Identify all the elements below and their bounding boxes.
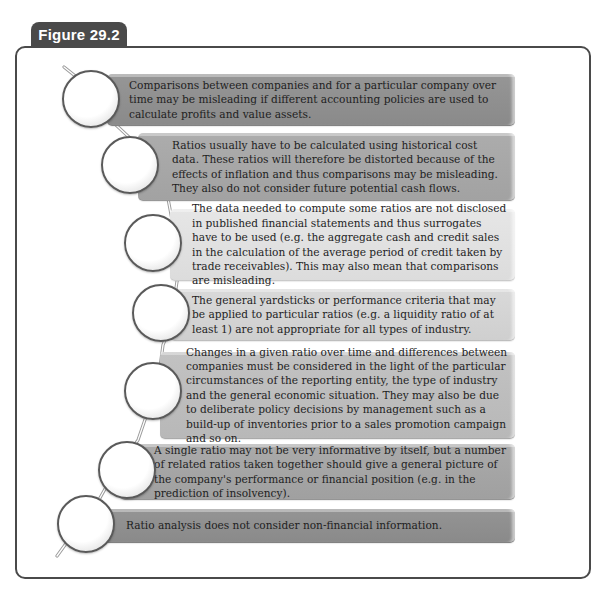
item-bar-1: Comparisons between companies and for a … <box>107 74 515 126</box>
bullet-circle-4 <box>132 284 190 342</box>
bullet-circle-6 <box>98 441 156 499</box>
item-text-5: Changes in a given ratio over time and d… <box>186 345 509 446</box>
item-text-2: Ratios usually have to be calculated usi… <box>172 138 505 196</box>
item-bar-4: The general yardsticks or performance cr… <box>170 289 515 341</box>
item-bar-5: Changes in a given ratio over time and d… <box>160 352 515 439</box>
item-text-7: Ratio analysis does not consider non-fin… <box>126 518 442 532</box>
bullet-circle-1 <box>62 70 120 128</box>
item-bar-2: Ratios usually have to be calculated usi… <box>138 133 515 201</box>
item-text-4: The general yardsticks or performance cr… <box>192 293 507 336</box>
bullet-circle-2 <box>101 136 159 194</box>
bullet-circle-7 <box>57 495 115 553</box>
bullet-circle-5 <box>124 362 182 420</box>
item-text-6: A single ratio may not be very informati… <box>154 443 509 501</box>
item-bar-3: The data needed to compute some ratios a… <box>170 209 515 281</box>
item-text-1: Comparisons between companies and for a … <box>129 78 505 121</box>
figure-label: Figure 29.2 <box>31 22 127 46</box>
item-bar-7: Ratio analysis does not consider non-fin… <box>100 509 515 543</box>
item-text-3: The data needed to compute some ratios a… <box>192 201 507 287</box>
item-bar-6: A single ratio may not be very informati… <box>120 444 515 500</box>
bullet-circle-3 <box>124 214 182 272</box>
